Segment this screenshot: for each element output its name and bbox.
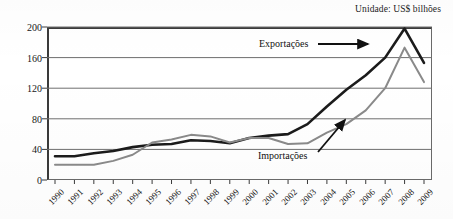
imports-annotation-label: Importações [258,150,307,161]
series-line-importacoes [55,48,424,165]
chart-page: Unidade: US$ bilhões 04080120160200 1990… [0,0,453,219]
series-line-exportacoes [55,29,424,157]
exports-annotation-label: Exportações [259,38,308,49]
chart-canvas [0,0,453,219]
